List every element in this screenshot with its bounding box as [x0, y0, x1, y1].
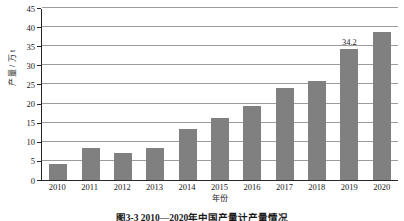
bar-series: 34.2: [42, 9, 398, 180]
bar-chart: 产量 / 万 t 051015202530354045 34.2 2010201…: [0, 0, 404, 200]
bar[interactable]: [243, 106, 261, 180]
y-tick-label: 40: [27, 24, 36, 33]
y-tick-label: 0: [31, 177, 35, 186]
bar-slot: [204, 9, 236, 180]
plot-area: 34.2: [41, 9, 398, 181]
y-axis-ticks: 051015202530354045: [0, 9, 41, 181]
x-tick-label: 2013: [138, 183, 170, 192]
x-tick-label: 2018: [301, 183, 333, 192]
bar-slot: [366, 9, 398, 180]
bar[interactable]: [211, 118, 229, 180]
x-tick-label: 2015: [203, 183, 235, 192]
y-tick-label: 10: [27, 139, 36, 148]
bar-slot: [107, 9, 139, 180]
bar-data-label: 34.2: [342, 38, 357, 47]
x-tick-label: 2019: [333, 183, 365, 192]
x-tick-label: 2017: [268, 183, 300, 192]
y-tick-label: 30: [27, 62, 36, 71]
y-tick-label: 20: [27, 100, 36, 109]
bar[interactable]: [340, 49, 358, 180]
bar-slot: [171, 9, 203, 180]
bar[interactable]: [308, 81, 326, 180]
gridline: [42, 7, 398, 8]
y-tick-label: 25: [27, 81, 36, 90]
y-tick-label: 15: [27, 119, 36, 128]
bar[interactable]: [82, 148, 100, 180]
x-tick-label: 2014: [171, 183, 203, 192]
bar[interactable]: [276, 88, 294, 180]
x-tick-label: 2012: [106, 183, 138, 192]
bar-slot: [301, 9, 333, 180]
y-tick-label: 5: [31, 158, 35, 167]
y-tick-label: 45: [27, 5, 36, 14]
x-axis-ticks: 2010201120122013201420152016201720182019…: [41, 183, 398, 192]
x-tick-label: 2011: [73, 183, 105, 192]
x-tick-label: 2016: [236, 183, 268, 192]
y-tick-label: 35: [27, 43, 36, 52]
x-tick-label: 2020: [366, 183, 398, 192]
bar-slot: [42, 9, 74, 180]
figure-caption: 图3-3 2010—2020年中国产量计产量情况: [0, 210, 404, 221]
figure-container: 产量 / 万 t 051015202530354045 34.2 2010201…: [0, 0, 404, 221]
bar[interactable]: [373, 32, 391, 180]
bar-slot: 34.2: [333, 9, 365, 180]
bar-slot: [139, 9, 171, 180]
bar[interactable]: [146, 148, 164, 180]
bar-slot: [269, 9, 301, 180]
x-axis-title: 年份: [41, 195, 398, 203]
bar-slot: [74, 9, 106, 180]
bar[interactable]: [114, 153, 132, 180]
x-tick-label: 2010: [41, 183, 73, 192]
bar[interactable]: [49, 164, 67, 180]
bar[interactable]: [179, 129, 197, 180]
bar-slot: [236, 9, 268, 180]
